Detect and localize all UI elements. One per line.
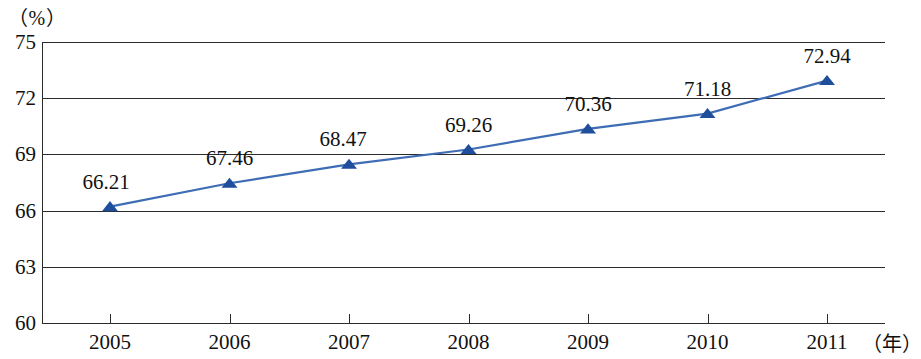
data-point-labels: 66.2167.4668.4769.2670.3671.1872.94	[42, 42, 885, 323]
data-point-label: 69.26	[445, 115, 492, 136]
y-axis-tick-labels: 757269666360	[0, 42, 36, 323]
y-axis-tick-label: 66	[2, 200, 36, 221]
x-axis-tick-label: 2005	[89, 330, 131, 354]
data-point-label: 70.36	[564, 94, 611, 115]
x-axis-unit-label: （年）	[862, 328, 921, 357]
y-axis-tick-label: 72	[2, 88, 36, 109]
y-axis-tick-label: 60	[2, 313, 36, 334]
x-axis-tick-label: 2009	[567, 330, 609, 354]
x-axis-tick-label: 2008	[448, 330, 490, 354]
x-axis-tick-label: 2011	[806, 330, 847, 354]
y-axis-tick-label: 75	[2, 32, 36, 53]
x-axis-tick-labels: 2005200620072008200920102011	[42, 330, 885, 358]
data-point-label: 71.18	[684, 79, 731, 100]
y-axis-tick-label: 63	[2, 256, 36, 277]
gridline-60	[42, 323, 885, 324]
data-point-label: 67.46	[206, 148, 253, 169]
data-point-label: 66.21	[82, 172, 129, 193]
x-axis-tick-label: 2007	[328, 330, 370, 354]
x-axis-tick-label: 2006	[209, 330, 251, 354]
line-chart: （%） 757269666360 66.2167.4668.4769.2670.…	[0, 0, 921, 359]
data-point-label: 72.94	[803, 46, 850, 67]
data-point-label: 68.47	[319, 129, 366, 150]
y-axis-unit-label: （%）	[8, 2, 66, 31]
y-axis-tick-label: 69	[2, 144, 36, 165]
x-axis-tick-label: 2010	[687, 330, 729, 354]
